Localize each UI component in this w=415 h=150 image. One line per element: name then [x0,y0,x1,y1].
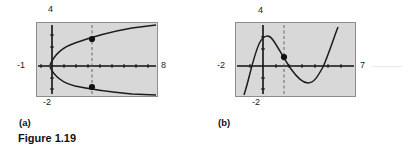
panel-b-sublabel: (b) [218,118,230,128]
panel-a-point-lower [89,84,95,90]
panel-b: 4 -2 7 -2 [200,0,415,112]
figure-caption: Figure 1.19 [18,133,76,144]
panel-a-curve-lower [50,67,156,95]
scan-artifact [372,66,402,67]
figure-1-19: 4 -1 8 -2 [0,0,415,150]
panel-a-right-label: 8 [161,61,166,70]
panel-a: 4 -1 8 -2 [0,0,200,112]
panel-a-plot-svg [37,23,157,96]
panel-a-curve-upper [50,25,156,65]
panel-b-bottom-label: -2 [252,98,260,107]
panel-b-curve [244,27,338,95]
panel-b-right-label: 7 [360,61,365,70]
panel-b-graph-screen [235,22,356,97]
panel-b-plot-svg [236,23,355,96]
panel-a-top-label: 4 [48,5,53,14]
panel-a-point-upper [89,36,95,42]
panel-a-left-label: -1 [17,61,25,70]
panel-a-graph-screen [36,22,158,97]
panel-a-sublabel: (a) [19,118,31,128]
panel-b-point [281,54,287,60]
panel-b-top-label: 4 [258,6,263,15]
panel-a-bottom-label: -2 [43,98,51,107]
panel-b-left-label: -2 [217,61,225,70]
